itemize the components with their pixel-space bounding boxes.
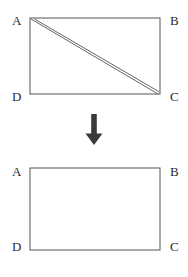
top-figure-rectangle-with-diagonal: A B D C	[0, 0, 188, 120]
bottom-rectangle-outline	[30, 168, 160, 250]
top-vertex-label-d: D	[12, 90, 21, 103]
bottom-figure-plain-rectangle: A B D C	[0, 150, 188, 277]
top-figure-graphic	[0, 0, 188, 120]
top-vertex-label-c: C	[170, 90, 179, 103]
bottom-vertex-label-a: A	[12, 165, 21, 178]
diagonal-line-upper	[31, 19, 158, 94]
bottom-vertex-label-b: B	[170, 165, 179, 178]
transformation-arrow	[82, 114, 106, 146]
bottom-figure-graphic	[0, 150, 188, 277]
top-vertex-label-a: A	[12, 14, 21, 27]
down-arrow-icon	[82, 114, 106, 146]
diagram-canvas: A B D C A B D C	[0, 0, 188, 277]
bottom-vertex-label-c: C	[170, 240, 179, 253]
bottom-vertex-label-d: D	[12, 240, 21, 253]
down-arrow-shape	[86, 114, 103, 145]
top-vertex-label-b: B	[170, 14, 179, 27]
diagonal-line-lower	[35, 19, 160, 92]
